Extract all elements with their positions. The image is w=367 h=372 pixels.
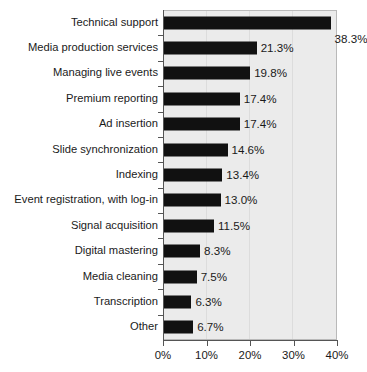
category-label: Slide synchronization	[52, 144, 158, 155]
bar-row: Media production services21.3%	[0, 35, 348, 60]
bar-row: Managing live events19.8%	[0, 61, 348, 86]
bar-row: Media cleaning7.5%	[0, 264, 348, 289]
bar	[164, 219, 214, 232]
category-label: Media cleaning	[83, 271, 158, 282]
bar	[164, 143, 228, 156]
bar	[164, 16, 331, 29]
bar-row: Other6.7%	[0, 315, 348, 340]
bar-value-label: 11.5%	[218, 220, 250, 232]
category-label: Transcription	[94, 296, 158, 307]
bar-value-label: 17.4%	[244, 93, 277, 105]
category-label: Indexing	[116, 169, 158, 180]
bar-value-label: 6.7%	[197, 322, 223, 334]
x-axis-tick	[163, 341, 164, 346]
bar	[164, 245, 200, 258]
category-label: Premium reporting	[66, 93, 158, 104]
bar-value-label: 13.0%	[225, 195, 258, 207]
bar-row: Event registration, with log-in13.0%	[0, 188, 348, 213]
y-axis-tick	[158, 112, 163, 113]
y-axis-tick	[158, 289, 163, 290]
category-label: Other	[130, 322, 158, 333]
bar	[164, 194, 221, 207]
bar	[164, 92, 240, 105]
y-axis-tick	[158, 61, 163, 62]
y-axis-tick	[158, 238, 163, 239]
bar-value-label: 13.4%	[226, 169, 259, 181]
y-axis-tick	[158, 162, 163, 163]
y-axis-tick	[158, 188, 163, 189]
x-axis-tick-label: 0%	[155, 349, 171, 361]
bar-value-label: 7.5%	[201, 271, 227, 283]
x-axis-tick-label: 20%	[239, 349, 262, 361]
bar-row: Ad insertion17.4%	[0, 112, 348, 137]
category-label: Managing live events	[53, 68, 158, 79]
bar	[164, 42, 257, 55]
bar-value-label: 21.3%	[261, 42, 294, 54]
x-axis-tick	[207, 341, 208, 346]
bar-row: Indexing13.4%	[0, 162, 348, 187]
x-axis-tick	[337, 341, 338, 346]
category-label: Event registration, with log-in	[14, 195, 158, 206]
category-label: Digital mastering	[75, 246, 158, 257]
bar-row: Transcription6.3%	[0, 289, 348, 314]
bar-row: Technical support38.3%	[0, 10, 348, 35]
bar-row: Premium reporting17.4%	[0, 86, 348, 111]
bar	[164, 270, 197, 283]
y-axis-tick	[158, 35, 163, 36]
bar-value-label: 6.3%	[195, 296, 221, 308]
category-label: Signal acquisition	[71, 220, 158, 231]
bar	[164, 67, 250, 80]
y-axis-tick	[158, 315, 163, 316]
bar-value-label: 8.3%	[204, 245, 230, 257]
bar-row: Slide synchronization14.6%	[0, 137, 348, 162]
y-axis-tick	[158, 213, 163, 214]
x-axis-tick-label: 10%	[195, 349, 218, 361]
bar	[164, 295, 191, 308]
bar-value-label: 17.4%	[244, 118, 277, 130]
x-axis-tick	[250, 341, 251, 346]
bar-value-label: 19.8%	[254, 68, 287, 80]
y-axis-tick	[158, 86, 163, 87]
bar-row: Signal acquisition11.5%	[0, 213, 348, 238]
x-axis-tick-label: 40%	[326, 349, 349, 361]
bar-value-label: 14.6%	[232, 144, 265, 156]
bar	[164, 118, 240, 131]
y-axis-tick	[158, 264, 163, 265]
category-label: Ad insertion	[99, 119, 158, 130]
category-label: Technical support	[71, 17, 158, 28]
category-label: Media production services	[28, 42, 158, 53]
x-axis-tick-label: 30%	[282, 349, 305, 361]
y-axis-tick	[158, 137, 163, 138]
bar	[164, 321, 193, 334]
bar	[164, 168, 222, 181]
bar-row: Digital mastering8.3%	[0, 238, 348, 263]
x-axis-tick	[294, 341, 295, 346]
